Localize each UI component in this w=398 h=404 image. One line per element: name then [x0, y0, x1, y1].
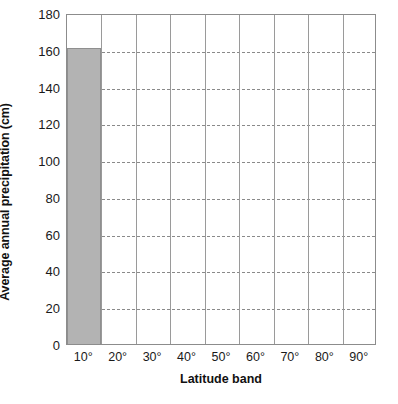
- bar-10°: [67, 48, 101, 344]
- x-tick-label: 90°: [342, 351, 376, 364]
- gridline-horizontal: [67, 89, 375, 90]
- y-tick-label: 80: [8, 191, 60, 204]
- y-tick-label: 160: [8, 44, 60, 57]
- x-tick-label: 40°: [169, 351, 203, 364]
- gridline-vertical: [170, 15, 171, 344]
- gridline-horizontal: [67, 52, 375, 53]
- y-tick-label: 20: [8, 302, 60, 315]
- x-tick-label: 30°: [135, 351, 169, 364]
- gridline-vertical: [101, 15, 102, 344]
- x-tick-label: 20°: [100, 351, 134, 364]
- gridline-horizontal: [67, 162, 375, 163]
- chart-figure: Average annual precipitation (cm) 020406…: [0, 0, 398, 404]
- x-tick-label: 70°: [273, 351, 307, 364]
- y-tick-label: 0: [8, 339, 60, 352]
- y-tick-label: 120: [8, 118, 60, 131]
- gridline-vertical: [343, 15, 344, 344]
- gridline-vertical: [274, 15, 275, 344]
- x-tick-label: 50°: [204, 351, 238, 364]
- gridline-vertical: [205, 15, 206, 344]
- gridline-horizontal: [67, 309, 375, 310]
- gridline-horizontal: [67, 236, 375, 237]
- x-tick-label: 60°: [238, 351, 272, 364]
- y-tick-label: 140: [8, 81, 60, 94]
- plot-area: [66, 14, 376, 345]
- x-tick-label: 80°: [307, 351, 341, 364]
- gridline-horizontal: [67, 125, 375, 126]
- x-axis-title: Latitude band: [66, 372, 376, 386]
- plot-inner: [67, 15, 375, 344]
- gridline-vertical: [136, 15, 137, 344]
- gridline-horizontal: [67, 199, 375, 200]
- gridline-horizontal: [67, 272, 375, 273]
- y-tick-label: 180: [8, 8, 60, 21]
- y-tick-label: 60: [8, 228, 60, 241]
- gridline-vertical: [239, 15, 240, 344]
- x-tick-label: 10°: [66, 351, 100, 364]
- y-tick-label: 100: [8, 155, 60, 168]
- y-tick-label: 40: [8, 265, 60, 278]
- x-axis-tick-labels: 10°20°30°40°50°60°70°80°90°: [66, 351, 376, 369]
- gridline-vertical: [308, 15, 309, 344]
- y-axis-tick-labels: 020406080100120140160180: [8, 14, 60, 345]
